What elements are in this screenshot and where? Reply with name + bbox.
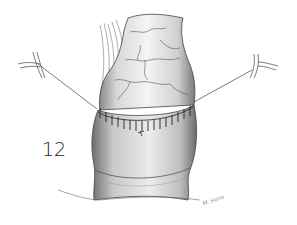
illustration-drawing	[0, 0, 297, 225]
figure-number: 12	[42, 138, 66, 160]
surgical-illustration: 12 M. Storm	[0, 0, 297, 225]
stay-suture-left	[18, 52, 97, 109]
stay-suture-right	[194, 54, 278, 102]
